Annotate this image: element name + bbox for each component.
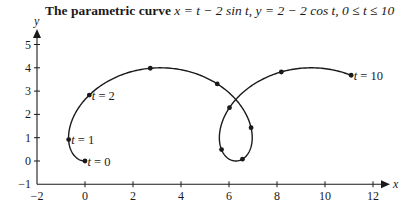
curve-point-t5 <box>249 125 254 130</box>
point-label-t2: t = 2 <box>92 89 115 103</box>
curve-point-t8 <box>227 105 232 110</box>
x-tick-label: 8 <box>274 189 280 203</box>
x-tick-label: 2 <box>130 189 136 203</box>
point-label-t10: t = 10 <box>354 69 383 83</box>
y-tick-label: 4 <box>25 61 31 75</box>
y-axis-label: y <box>33 14 40 28</box>
x-axis-arrow-icon <box>381 180 390 188</box>
point-label-t0: t = 0 <box>88 155 111 169</box>
curve-point-t9 <box>279 70 284 75</box>
x-tick-label: −2 <box>31 189 44 203</box>
curve-point-t7 <box>219 147 224 152</box>
y-axis-arrow-icon <box>33 29 41 38</box>
curve-point-t4 <box>215 81 220 86</box>
point-label-t1: t = 1 <box>71 133 94 147</box>
parametric-curve-chart: xy−2024681012−1012345 t = 0t = 1t = 2t =… <box>0 0 407 210</box>
x-tick-label: 0 <box>82 189 88 203</box>
axes: xy−2024681012−1012345 <box>18 14 399 203</box>
y-tick-label: 3 <box>25 84 31 98</box>
y-tick-label: 2 <box>25 107 31 121</box>
y-tick-label: 1 <box>25 131 31 145</box>
curve-point-t3 <box>148 66 153 71</box>
x-tick-label: 4 <box>178 189 184 203</box>
parametric-curve-line <box>69 68 352 161</box>
y-tick-label: −1 <box>18 177 31 191</box>
y-tick-label: 5 <box>25 38 31 52</box>
y-tick-label: 0 <box>25 154 31 168</box>
x-tick-label: 6 <box>226 189 232 203</box>
curve-point-t6 <box>240 157 245 162</box>
x-tick-label: 10 <box>319 189 331 203</box>
x-axis-label: x <box>392 177 399 191</box>
x-tick-label: 12 <box>367 189 379 203</box>
